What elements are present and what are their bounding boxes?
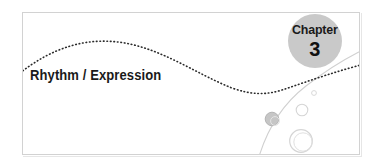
- bubble-gray-filled: [265, 112, 279, 126]
- panel-frame: Chapter 3 Rhythm / Expression: [22, 12, 360, 155]
- bubble-gray-filled-highlight: [271, 117, 280, 126]
- bubble-tiny-dot: [312, 91, 317, 96]
- bubble-large-ring: [290, 130, 313, 153]
- bubble-large-ring-inner: [294, 133, 312, 151]
- page-title: Rhythm / Expression: [30, 67, 161, 83]
- bubble-small-ring: [296, 104, 308, 116]
- chapter-badge: Chapter 3: [288, 14, 342, 68]
- chapter-badge-label: Chapter: [292, 23, 338, 37]
- chapter-banner: Chapter 3 Rhythm / Expression: [0, 0, 382, 167]
- chapter-badge-number: 3: [309, 38, 320, 59]
